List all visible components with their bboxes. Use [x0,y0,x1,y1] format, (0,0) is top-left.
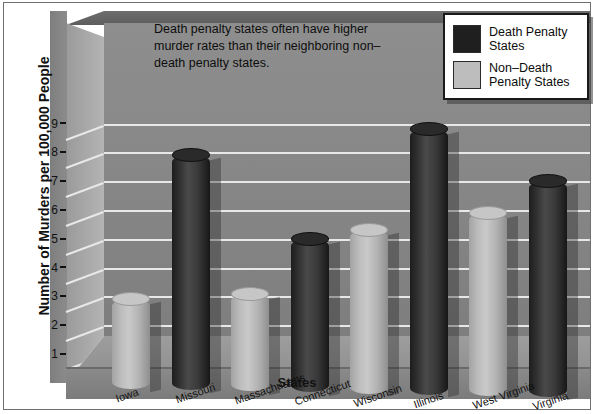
chart-legend: Death Penalty States Non–Death Penalty S… [443,13,589,100]
legend-label-death-penalty: Death Penalty States [489,25,581,54]
bar-missouri [172,155,210,390]
bar-shadow [329,242,340,396]
chart-annotation: Death penalty states often have higher m… [154,21,384,72]
bar-shadow [210,158,221,393]
bar-body [291,239,329,393]
bar-top-cap [291,232,329,246]
bar-body [529,181,567,397]
bar-virginia [529,181,567,397]
x-axis-title: States [4,375,590,390]
bar-top-cap [469,206,507,220]
bar-wisconsin [350,230,388,393]
bar-shadow [388,233,399,397]
bar-west-virginia [469,213,507,396]
legend-item-death-penalty-states: Death Penalty States [453,25,581,54]
bar-top-cap [231,287,269,301]
legend-label-non-death-penalty: Non–Death Penalty States [489,61,581,90]
y-tick-label: 1 [32,347,66,361]
chart-frame: IowaMissouriMassachusettsConnecticutWisc… [3,2,591,410]
bar-body [410,129,448,394]
bar-top-cap [529,174,567,188]
legend-item-non-death-penalty-states: Non–Death Penalty States [453,61,581,90]
bar-illinois [410,129,448,394]
bar-body [172,155,210,390]
bar-top-cap [172,148,210,162]
legend-swatch-death-penalty [453,25,481,53]
bar-shadow [567,184,578,400]
bar-connecticut [291,239,329,393]
y-axis-title: Number of Murders per 100,000 People [36,46,52,326]
gridline [104,124,590,126]
bar-body [469,213,507,396]
bar-body [350,230,388,393]
chart-screenshot: IowaMissouriMassachusettsConnecticutWisc… [0,0,594,414]
legend-swatch-non-death-penalty [453,61,481,89]
bar-shadow [507,216,518,399]
bar-shadow [448,132,459,398]
